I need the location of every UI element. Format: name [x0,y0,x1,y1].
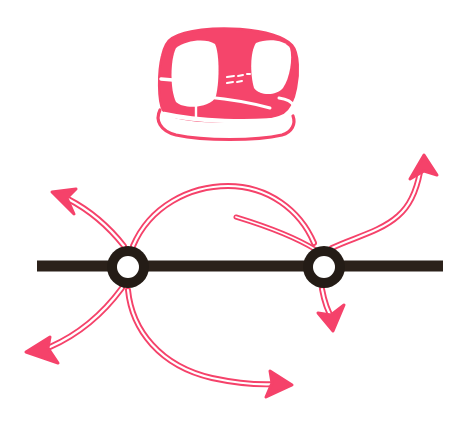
arrow-upper-left [52,189,124,246]
route-arrows [26,155,437,397]
arrow-lower-sweep-right [128,290,292,397]
right-node [303,246,345,288]
horizontal-rail [37,261,443,272]
arrow-lower-left [26,288,122,363]
arrow-upper-right-head [410,155,437,179]
pod-marker-light [161,79,173,80]
transit-pod [158,28,298,139]
illustration-canvas: Stylized red transit pod above a horizon… [0,0,460,439]
arrow-lower-left-head [26,337,58,363]
arrow-down-right-node-head [318,305,344,331]
arrow-upper-right [332,155,437,248]
transit-node-illustration [0,0,460,439]
arrow-down-right-node [318,289,344,331]
left-node [107,246,149,288]
pod-body [159,28,298,121]
